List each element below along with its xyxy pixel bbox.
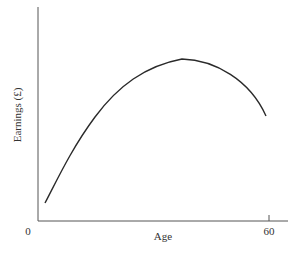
- x-axis-title: Age: [154, 230, 172, 242]
- earnings-curve: [45, 59, 266, 203]
- x-end-label: 60: [264, 225, 276, 237]
- age-earnings-chart: 0 60 Age Earnings (£): [0, 0, 305, 254]
- y-axis-title: Earnings (£): [11, 87, 24, 142]
- x-origin-label: 0: [25, 225, 31, 237]
